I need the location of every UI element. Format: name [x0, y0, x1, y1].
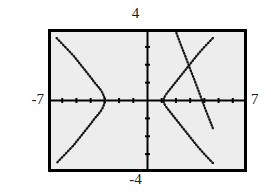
curve-pixel: [195, 82, 197, 84]
curve-pixel: [212, 127, 214, 129]
curve-pixel: [163, 101, 165, 103]
curve-pixel: [205, 111, 207, 113]
curve-pixel: [184, 53, 186, 55]
curve-pixel: [199, 93, 201, 95]
curve-pixel: [197, 88, 199, 90]
curve-pixel: [196, 85, 198, 87]
curve-pixel: [163, 99, 165, 101]
curve-pixel: [104, 100, 106, 102]
curve-pixel: [212, 162, 214, 164]
curve-pixel: [211, 125, 213, 127]
curve-pixel: [186, 59, 188, 61]
curve-pixel: [182, 50, 184, 52]
curve-pixel: [185, 56, 187, 58]
curve-pixel: [203, 105, 205, 107]
curve-pixel: [165, 93, 167, 95]
curve-pixel: [198, 90, 200, 92]
curve-pixel: [188, 64, 190, 66]
curve-pixel: [191, 73, 193, 75]
curve-pixel: [103, 97, 105, 99]
curve-pixel: [209, 119, 211, 121]
curve-pixel: [180, 44, 182, 46]
curve-pixel: [204, 108, 206, 110]
curve-pixel: [201, 99, 203, 101]
curve-pixel: [187, 62, 189, 64]
curve-pixel: [200, 96, 202, 98]
curve-pixel: [103, 94, 105, 96]
curve-pixel: [103, 105, 105, 107]
curve-pixel: [56, 161, 58, 163]
curve-pixel: [202, 102, 204, 104]
curve-pixel: [178, 39, 180, 41]
plot-area: [0, 0, 271, 193]
curve-pixel: [189, 67, 191, 69]
curve-pixel: [206, 113, 208, 115]
curve-pixel: [181, 47, 183, 49]
curve-pixel: [208, 116, 210, 118]
curve-pixel: [164, 104, 166, 106]
curve-pixel: [177, 36, 179, 38]
curve-pixel: [190, 70, 192, 72]
curve-pixel: [101, 92, 103, 94]
curve-pixel: [210, 122, 212, 124]
curve-pixel: [103, 102, 105, 104]
curve-pixel: [100, 89, 102, 91]
curve-pixel: [164, 96, 166, 98]
curve-pixel: [101, 108, 103, 110]
curve-pixel: [192, 76, 194, 78]
curve-pixel: [193, 79, 195, 81]
graph-figure: 4 -4 -7 7: [0, 0, 271, 193]
curve-pixel: [179, 41, 181, 43]
curve-pixel: [176, 33, 178, 35]
